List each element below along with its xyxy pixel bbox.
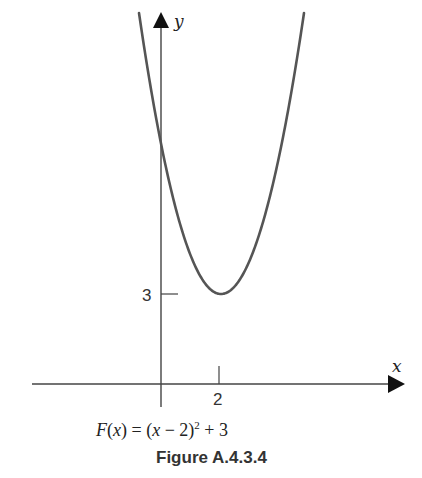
- formula-variable: x: [113, 420, 121, 440]
- x-axis-arrow-icon: [388, 375, 405, 393]
- formula-part: ) = (: [121, 420, 152, 440]
- formula-variable: x: [152, 420, 160, 440]
- formula-part: − 2): [160, 420, 194, 440]
- parabola-curve: [139, 13, 304, 294]
- formula-function-name: F: [96, 420, 107, 440]
- function-label: F(x) = (x − 2)2 + 3: [96, 419, 228, 441]
- formula-part: + 3: [200, 420, 228, 440]
- x-tick-label-2: 2: [213, 390, 222, 409]
- y-axis-label: y: [173, 11, 184, 31]
- plot-area: y x 3 2: [0, 0, 422, 478]
- figure: y x 3 2 F(x) = (x − 2)2 + 3 Figure A.4.3…: [0, 0, 422, 478]
- y-tick-label-3: 3: [142, 286, 151, 305]
- x-axis-label: x: [392, 356, 402, 376]
- y-axis-arrow-icon: [153, 12, 169, 28]
- figure-caption: Figure A.4.3.4: [156, 448, 267, 468]
